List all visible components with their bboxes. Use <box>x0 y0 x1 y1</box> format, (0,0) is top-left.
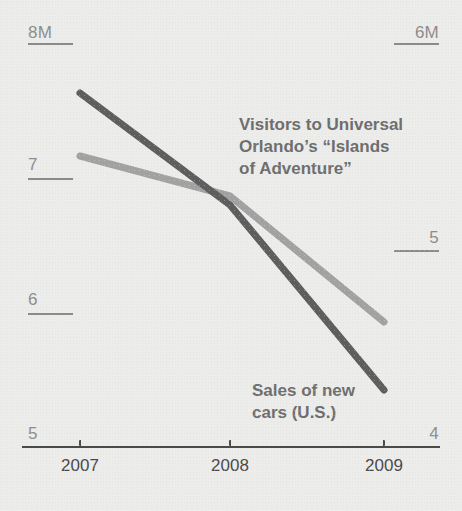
x-axis-label-2007: 2007 <box>40 456 120 476</box>
dual-axis-line-chart: 8M 7 6 5 6M 5 4 Visitors to Universal Or… <box>0 0 462 511</box>
x-axis-label-2008: 2008 <box>190 456 270 476</box>
plot-area <box>0 0 462 511</box>
series-line-visitors <box>80 156 384 322</box>
series-label-visitors: Visitors to Universal Orlando’s “Islands… <box>239 114 403 179</box>
series-label-car-sales: Sales of new cars (U.S.) <box>252 380 355 424</box>
x-axis-label-2009: 2009 <box>344 456 424 476</box>
